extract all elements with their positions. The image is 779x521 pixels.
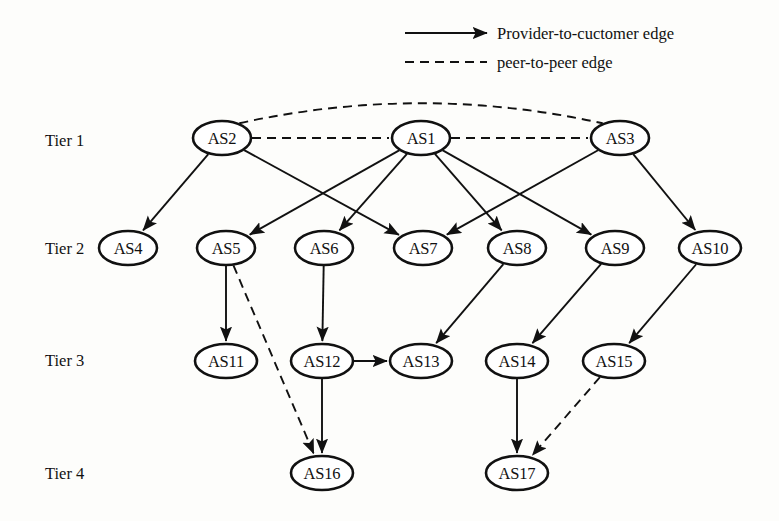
- legend: Provider-to-cuctomer edge peer-to-peer e…: [405, 24, 674, 72]
- node-as10[interactable]: AS10: [679, 231, 741, 265]
- node-as4[interactable]: AS4: [99, 231, 157, 265]
- node-as11[interactable]: AS11: [195, 344, 257, 378]
- node-label: AS15: [596, 352, 633, 371]
- node-label: AS16: [304, 464, 341, 483]
- legend-peer-label: peer-to-peer edge: [497, 53, 613, 72]
- node-label: AS1: [407, 129, 436, 148]
- node-label: AS11: [208, 352, 244, 371]
- tier-label-4: Tier 4: [45, 464, 84, 483]
- edge-as15-as17: [532, 377, 600, 455]
- node-as13[interactable]: AS13: [390, 344, 452, 378]
- node-as5[interactable]: AS5: [197, 231, 255, 265]
- node-as8[interactable]: AS8: [488, 231, 546, 265]
- node-as16[interactable]: AS16: [291, 456, 353, 490]
- edge-as6-as12: [322, 266, 323, 341]
- node-label: AS14: [499, 352, 536, 371]
- node-label: AS9: [601, 239, 630, 258]
- node-as6[interactable]: AS6: [295, 231, 353, 265]
- node-as3[interactable]: AS3: [591, 121, 649, 155]
- edge-as2-as4: [143, 154, 208, 230]
- node-label: AS6: [310, 239, 339, 258]
- edge-as9-as14: [532, 264, 601, 343]
- node-label: AS10: [692, 239, 729, 258]
- node-as17[interactable]: AS17: [486, 456, 548, 490]
- tier-label-2: Tier 2: [45, 239, 84, 258]
- node-label: AS4: [114, 239, 143, 258]
- node-as9[interactable]: AS9: [586, 231, 644, 265]
- edge-as3-as10: [633, 154, 695, 230]
- node-label: AS3: [606, 129, 635, 148]
- node-label: AS12: [304, 352, 341, 371]
- node-label: AS7: [409, 239, 438, 258]
- node-label: AS8: [503, 239, 532, 258]
- tier-label-3: Tier 3: [45, 351, 84, 370]
- node-label: AS2: [208, 129, 237, 148]
- tier-label-1: Tier 1: [45, 131, 84, 150]
- edge-as10-as15: [629, 264, 696, 343]
- node-label: AS13: [403, 352, 440, 371]
- node-as14[interactable]: AS14: [486, 344, 548, 378]
- edge-as1-as9: [443, 150, 591, 234]
- diagram-canvas: AS2AS1AS3AS4AS5AS6AS7AS8AS9AS10AS11AS12A…: [0, 0, 779, 521]
- node-as7[interactable]: AS7: [394, 231, 452, 265]
- nodes-layer: AS2AS1AS3AS4AS5AS6AS7AS8AS9AS10AS11AS12A…: [99, 121, 741, 490]
- node-as12[interactable]: AS12: [291, 344, 353, 378]
- node-as2[interactable]: AS2: [193, 121, 251, 155]
- node-as1[interactable]: AS1: [392, 121, 450, 155]
- legend-provider-label: Provider-to-cuctomer edge: [497, 24, 674, 43]
- edge-as8-as13: [436, 264, 503, 343]
- tier-labels-layer: Tier 1Tier 2Tier 3Tier 4: [45, 131, 84, 483]
- node-label: AS17: [499, 464, 536, 483]
- node-label: AS5: [212, 239, 241, 258]
- node-as15[interactable]: AS15: [583, 344, 645, 378]
- as-hierarchy-diagram: AS2AS1AS3AS4AS5AS6AS7AS8AS9AS10AS11AS12A…: [0, 0, 779, 521]
